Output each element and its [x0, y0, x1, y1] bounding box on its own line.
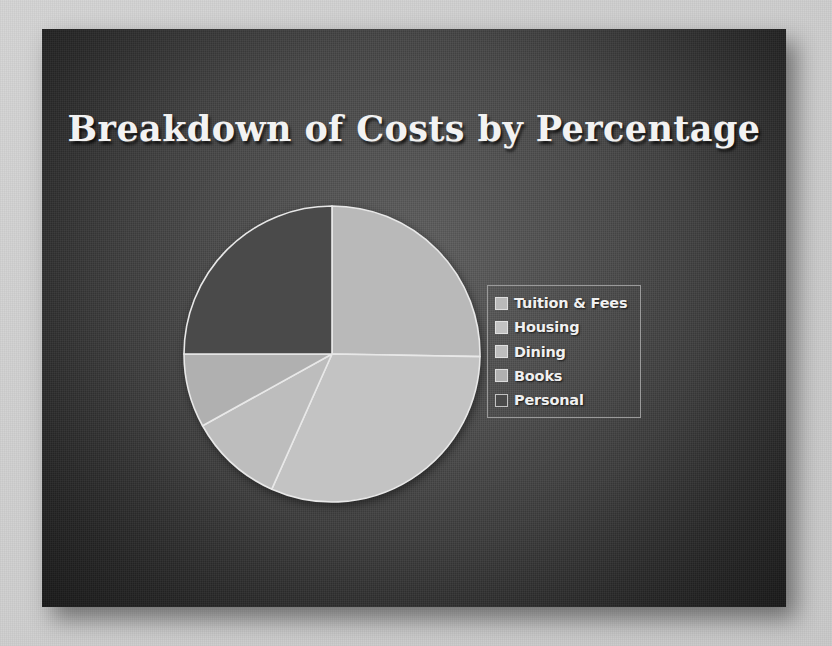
legend-label-personal: Personal — [514, 392, 584, 408]
presentation-screenshot: Breakdown of Costs by Percentage Tuition… — [0, 0, 832, 646]
legend-item-tuition-fees[interactable]: Tuition & Fees — [495, 292, 632, 314]
pie-chart-svg — [182, 204, 482, 504]
legend-swatch-dining — [495, 345, 508, 358]
legend-label-dining: Dining — [514, 344, 566, 360]
legend-item-housing[interactable]: Housing — [495, 316, 632, 338]
legend-item-books[interactable]: Books — [495, 365, 632, 387]
slide-canvas: Breakdown of Costs by Percentage Tuition… — [42, 29, 786, 607]
legend-label-books: Books — [514, 368, 562, 384]
chart-legend: Tuition & Fees Housing Dining Books Pers… — [487, 285, 641, 418]
legend-label-housing: Housing — [514, 319, 579, 335]
slide-title: Breakdown of Costs by Percentage — [42, 108, 786, 149]
legend-swatch-books — [495, 369, 508, 382]
pie-slice-personal[interactable] — [184, 206, 332, 354]
legend-swatch-personal — [495, 394, 508, 407]
pie-slice-group — [184, 206, 480, 502]
legend-label-tuition-fees: Tuition & Fees — [514, 295, 627, 311]
legend-swatch-housing — [495, 321, 508, 334]
pie-slice-tuition-fees[interactable] — [332, 206, 480, 357]
legend-item-personal[interactable]: Personal — [495, 389, 632, 411]
legend-swatch-tuition-fees — [495, 297, 508, 310]
legend-item-dining[interactable]: Dining — [495, 341, 632, 363]
